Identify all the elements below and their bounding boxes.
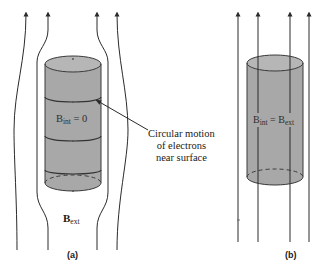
- callout-line-3: near surface: [148, 152, 215, 164]
- subscript-ext: ext: [285, 118, 294, 127]
- subscript-int: int: [260, 118, 268, 127]
- panel-label-b: (b): [285, 250, 297, 260]
- equals-zero: = 0: [71, 113, 87, 124]
- field-line: [14, 14, 26, 250]
- subscript-ext: ext: [70, 217, 79, 226]
- callout-text: Circular motion of electrons near surfac…: [148, 128, 215, 164]
- subscript-int: int: [63, 117, 71, 126]
- callout-line-1: Circular motion: [148, 128, 215, 140]
- interior-field-label-a: Bint = 0: [56, 113, 87, 126]
- panel-label-a: (a): [67, 250, 78, 260]
- interior-field-label-b: Bint = Bext: [253, 114, 294, 127]
- equals-b: = B: [268, 114, 285, 125]
- b-symbol: B: [56, 113, 63, 124]
- panel-b: [237, 14, 309, 242]
- callout-arrow: [96, 100, 148, 130]
- b-symbol: B: [253, 114, 260, 125]
- panel-a: [14, 14, 148, 250]
- field-line: [117, 14, 128, 250]
- exterior-field-label-a: Bext: [63, 212, 80, 226]
- callout-line-2: of electrons: [148, 140, 215, 152]
